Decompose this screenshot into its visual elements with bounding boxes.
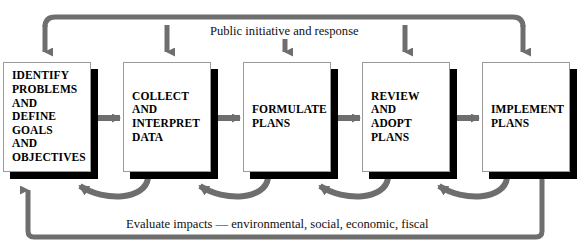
process-label-implement: IMPLEMENT PLANS [483,103,568,130]
process-box-implement[interactable]: IMPLEMENT PLANS [482,62,570,172]
bottom-loop-caption: Evaluate impacts — environmental, social… [120,217,435,232]
planning-process-diagram: IDENTIFY PROBLEMS AND DEFINE GOALS AND O… [0,0,577,248]
process-label-formulate: FORMULATE PLANS [244,103,331,130]
feedback-arcs [80,178,507,196]
top-loop-caption: Public initiative and response [204,24,365,39]
process-label-collect: COLLECT AND INTERPRET DATA [124,90,204,144]
process-box-collect[interactable]: COLLECT AND INTERPRET DATA [123,62,211,172]
process-box-formulate[interactable]: FORMULATE PLANS [243,62,331,172]
process-label-identify: IDENTIFY PROBLEMS AND DEFINE GOALS AND O… [4,69,90,164]
process-box-review[interactable]: REVIEW AND ADOPT PLANS [362,62,450,172]
process-label-review: REVIEW AND ADOPT PLANS [363,90,424,144]
process-box-identify[interactable]: IDENTIFY PROBLEMS AND DEFINE GOALS AND O… [3,62,91,172]
